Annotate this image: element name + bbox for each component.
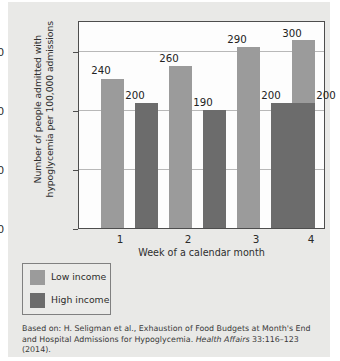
bar-week2-low-income — [169, 66, 192, 228]
legend-swatch-high-income — [30, 293, 45, 308]
x-tick-label-1: 1 — [105, 233, 135, 245]
legend-label-low-income: Low income — [51, 271, 106, 282]
bar-week2-high-income — [203, 110, 226, 228]
gridline-300 — [79, 51, 324, 52]
source-caption: Based on: H. Seligman et al., Exhaustion… — [22, 324, 320, 356]
bar-label-week1-low: 240 — [81, 65, 121, 76]
caption-journal: Health Affairs — [196, 335, 250, 344]
x-tick-label-4: 4 — [296, 233, 326, 245]
bar-label-week3-low: 290 — [217, 34, 257, 45]
y-tick-label-100: 100 — [0, 164, 4, 176]
bar-label-week4-high: 200 — [306, 90, 340, 101]
bar-label-week4-low: 300 — [272, 28, 312, 39]
plot-frame — [78, 21, 325, 229]
figure-panel: Number of people admitted with hypoglyce… — [8, 2, 330, 357]
bar-chart: Number of people admitted with hypoglyce… — [8, 2, 330, 260]
y-tick-label-0: 0 — [0, 223, 4, 235]
y-axis-title: Number of people admitted with hypoglyce… — [32, 9, 56, 209]
bar-week3-low-income — [237, 47, 260, 228]
bar-label-week3-high: 200 — [251, 90, 291, 101]
x-tick-label-2: 2 — [173, 233, 203, 245]
legend: Low income High income — [22, 263, 111, 315]
bar-label-week2-high: 190 — [183, 97, 223, 108]
x-tick-label-3: 3 — [241, 233, 271, 245]
y-tick-label-300: 300 — [0, 46, 4, 58]
y-tick-mark-0 — [73, 229, 78, 230]
y-tick-label-200: 200 — [0, 105, 4, 117]
bar-week3-high-income — [271, 103, 294, 228]
bar-label-week2-low: 260 — [149, 53, 189, 64]
x-axis-title: Week of a calendar month — [78, 247, 325, 258]
bar-label-week1-high: 200 — [115, 90, 155, 101]
legend-swatch-low-income — [30, 270, 45, 285]
legend-label-high-income: High income — [51, 294, 109, 305]
bar-week1-high-income — [135, 103, 158, 228]
